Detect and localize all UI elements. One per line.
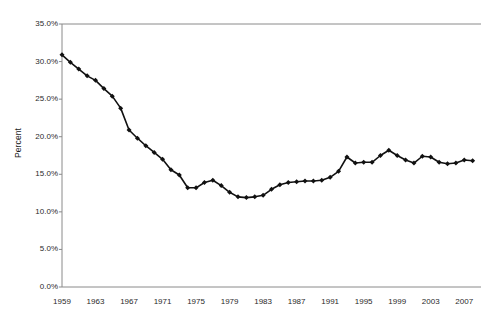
- data-point-marker: [470, 158, 475, 163]
- data-line: [62, 55, 473, 198]
- data-point-marker: [303, 179, 308, 184]
- data-point-marker: [361, 160, 366, 165]
- data-point-marker: [453, 161, 458, 166]
- data-point-marker: [252, 194, 257, 199]
- data-point-marker: [294, 179, 299, 184]
- data-point-marker: [311, 179, 316, 184]
- chart-container: Percent 0.0%5.0%10.0%15.0%20.0%25.0%30.0…: [0, 0, 485, 321]
- plot-area: [0, 0, 485, 321]
- data-point-marker: [462, 158, 467, 163]
- data-point-marker: [319, 178, 324, 183]
- data-point-marker: [445, 161, 450, 166]
- data-point-marker: [286, 180, 291, 185]
- data-point-marker: [244, 195, 249, 200]
- axis-lines: [62, 24, 481, 287]
- data-markers: [60, 52, 476, 200]
